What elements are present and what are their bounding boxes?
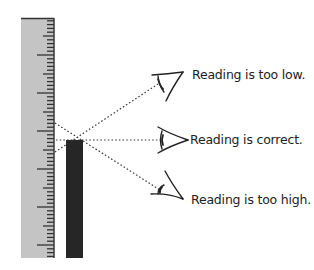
sight-line-high	[55, 84, 158, 152]
label-too-high: Reading is too high.	[191, 192, 311, 207]
label-correct: Reading is correct.	[190, 132, 303, 147]
eye-icon-high	[152, 72, 183, 101]
eye-icon-level	[158, 127, 188, 153]
eye-icon-low	[151, 171, 183, 199]
label-too-low: Reading is too low.	[192, 67, 305, 82]
ruler	[21, 18, 54, 258]
liquid-column	[66, 140, 83, 258]
parallax-diagram: Reading is too low. Reading is correct. …	[0, 0, 314, 270]
